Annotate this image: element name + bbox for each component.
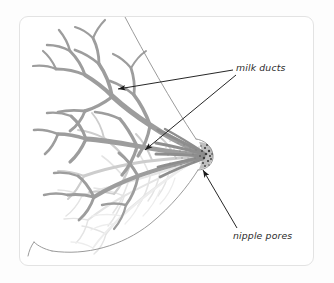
label-nipple-pores: nipple pores <box>233 231 292 240</box>
illustration-card <box>19 16 314 266</box>
figure-canvas: milk ducts nipple pores <box>0 0 334 283</box>
label-milk-ducts: milk ducts <box>236 63 285 72</box>
